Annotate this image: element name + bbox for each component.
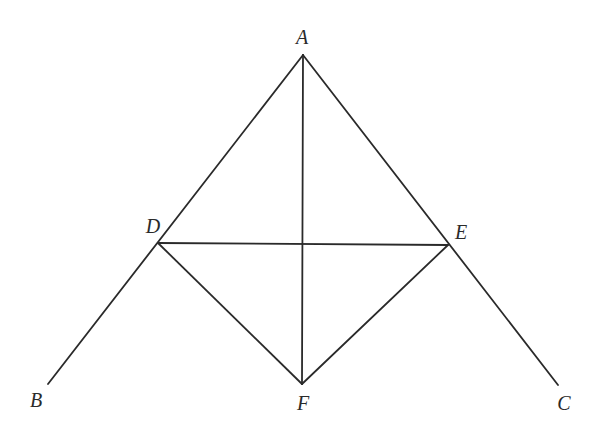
- point-label-c: C: [557, 392, 571, 414]
- segment-ef: [302, 245, 448, 384]
- point-label-e: E: [454, 221, 467, 243]
- segments: [48, 55, 558, 385]
- segment-ab: [48, 55, 303, 384]
- point-label-a: A: [294, 26, 309, 48]
- point-labels: A B C D E F: [30, 26, 571, 414]
- point-label-d: D: [145, 215, 161, 237]
- segment-af: [302, 55, 303, 384]
- point-label-b: B: [30, 389, 42, 411]
- geometry-diagram: A B C D E F: [0, 0, 602, 431]
- point-label-f: F: [296, 392, 310, 414]
- segment-df: [158, 243, 302, 384]
- segment-de: [158, 243, 448, 245]
- segment-ac: [303, 55, 558, 385]
